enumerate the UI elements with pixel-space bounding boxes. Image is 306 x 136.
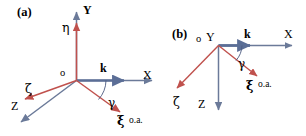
panel-a-tag: (a) [17, 6, 32, 19]
label-X-b: X [284, 28, 293, 40]
figure-canvas: (a) Y η o k X γ ζ Z ξ o.a. [0, 0, 306, 136]
panel-b: (b) o Y k X γ ζ Z ξ o.a. [153, 0, 306, 136]
label-Z-b: Z [198, 98, 205, 110]
panel-b-tag: (b) [172, 28, 187, 41]
label-xi-a: ξ [117, 115, 124, 128]
label-xi-b: ξ [246, 80, 253, 93]
panel-a: (a) Y η o k X γ ζ Z ξ o.a. [0, 0, 153, 136]
label-k-b: k [244, 28, 251, 40]
axis-zeta-b [177, 46, 219, 89]
label-origin-b: o [196, 34, 201, 45]
label-origin-a: o [60, 68, 65, 79]
label-gamma-b: γ [238, 58, 245, 70]
panel-b-vectors [153, 0, 306, 136]
label-k-a: k [100, 62, 107, 74]
label-optic-axis-a: o.a. [129, 116, 143, 126]
axis-zeta-a [25, 81, 77, 100]
label-Z-a: Z [11, 100, 18, 112]
label-eta-a: η [62, 22, 70, 35]
label-gamma-a: γ [108, 97, 115, 109]
label-Y-b: Y [206, 31, 215, 43]
label-zeta-a: ζ [25, 83, 32, 96]
label-Y-a: Y [83, 4, 92, 16]
label-X-a: X [143, 69, 152, 81]
label-optic-axis-b: o.a. [258, 80, 272, 90]
label-zeta-b: ζ [173, 96, 180, 109]
